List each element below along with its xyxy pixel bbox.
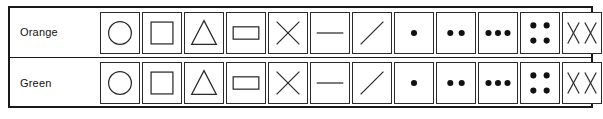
symbol-legend-table: Orange [8,6,593,108]
symbol-cells-green [100,62,603,104]
four-dots-icon [521,13,559,53]
three-dots-icon [479,63,517,103]
horizontal-line-icon [311,63,349,103]
legend-cell-circle[interactable] [100,12,140,54]
square-icon [143,13,181,53]
legend-cell-horizontal-line[interactable] [310,12,350,54]
horizontal-line-icon [311,13,349,53]
legend-cell-four-dots[interactable] [520,62,560,104]
circle-icon [101,63,139,103]
cross-x-icon [269,13,307,53]
rectangle-icon [227,13,265,53]
legend-cell-two-dots[interactable] [436,12,476,54]
double-x-icon [563,63,601,103]
legend-cell-circle[interactable] [100,62,140,104]
two-dots-icon [437,63,475,103]
legend-cell-triangle[interactable] [184,62,224,104]
legend-cell-one-dot[interactable] [394,62,434,104]
double-x-icon [563,13,601,53]
legend-cell-double-x[interactable] [562,12,602,54]
three-dots-icon [479,13,517,53]
legend-cell-three-dots[interactable] [478,62,518,104]
legend-row-green: Green [10,58,591,108]
two-dots-icon [437,13,475,53]
triangle-icon [185,63,223,103]
square-icon [143,63,181,103]
circle-icon [101,13,139,53]
legend-cell-three-dots[interactable] [478,12,518,54]
legend-cell-four-dots[interactable] [520,12,560,54]
one-dot-icon [395,13,433,53]
cross-x-icon [269,63,307,103]
triangle-icon [185,13,223,53]
row-label-orange: Orange [10,27,100,38]
legend-row-orange: Orange [10,8,591,58]
one-dot-icon [395,63,433,103]
legend-cell-rectangle[interactable] [226,62,266,104]
rectangle-icon [227,63,265,103]
legend-cell-cross-x[interactable] [268,62,308,104]
symbol-cells-orange [100,12,603,54]
legend-cell-two-dots[interactable] [436,62,476,104]
diagonal-line-icon [353,63,391,103]
four-dots-icon [521,63,559,103]
legend-cell-one-dot[interactable] [394,12,434,54]
legend-cell-triangle[interactable] [184,12,224,54]
legend-cell-diagonal-line[interactable] [352,62,392,104]
legend-cell-double-x[interactable] [562,62,602,104]
row-label-green: Green [10,78,100,89]
legend-cell-square[interactable] [142,62,182,104]
diagonal-line-icon [353,13,391,53]
legend-cell-rectangle[interactable] [226,12,266,54]
legend-cell-diagonal-line[interactable] [352,12,392,54]
legend-cell-square[interactable] [142,12,182,54]
legend-cell-horizontal-line[interactable] [310,62,350,104]
legend-cell-cross-x[interactable] [268,12,308,54]
